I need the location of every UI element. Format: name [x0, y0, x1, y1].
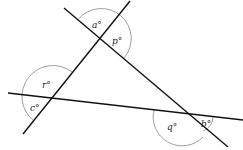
label-r: r° — [42, 80, 51, 90]
line-1 — [23, 1, 130, 134]
label-q: q° — [167, 122, 177, 132]
label-a: a° — [92, 20, 102, 30]
label-b: b° — [201, 119, 211, 129]
line-3 — [8, 93, 243, 120]
label-p: p° — [112, 36, 122, 46]
angle-diagram: a° p° r° c° q° b° — [0, 0, 243, 150]
label-c: c° — [30, 103, 40, 113]
arc-q — [153, 110, 203, 146]
